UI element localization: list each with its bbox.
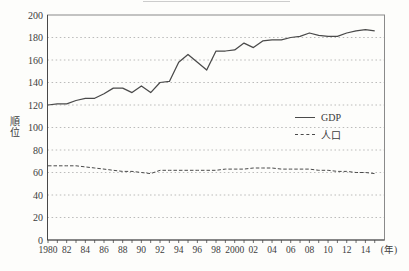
population-legend-line-swatch — [295, 134, 315, 135]
x-axis-unit-label: (年) — [381, 244, 397, 256]
y-tick-label: 180 — [28, 32, 43, 43]
legend: GDP 人口 — [295, 111, 341, 141]
y-tick-label: 120 — [28, 100, 43, 111]
x-tick-label: 86 — [99, 245, 109, 255]
x-tick-label: 14 — [361, 245, 371, 255]
y-tick-label: 60 — [33, 167, 43, 178]
y-tick-label: 140 — [28, 77, 43, 88]
y-tick-label: 80 — [33, 145, 43, 156]
population-legend-label: 人口 — [321, 127, 341, 142]
x-tick-label: 04 — [267, 245, 277, 255]
x-tick-label: 96 — [193, 245, 203, 255]
x-tick-label: 90 — [137, 245, 147, 255]
x-tick-label: 06 — [286, 245, 296, 255]
gdp-series-line — [48, 30, 375, 105]
y-tick-label: 40 — [33, 190, 43, 201]
y-tick-label: 0 — [38, 235, 43, 246]
y-tick-label: 100 — [28, 122, 43, 133]
x-tick-label: 92 — [155, 245, 165, 255]
line-chart: 0204060801001201401601802001980828486889… — [0, 0, 409, 271]
y-tick-label: 20 — [33, 212, 43, 223]
x-tick-label: 1980 — [39, 245, 58, 255]
gdp-legend-label: GDP — [321, 112, 341, 123]
x-tick-label: 2000 — [225, 245, 244, 255]
legend-row-gdp: GDP — [295, 111, 341, 124]
x-tick-label: 98 — [211, 245, 221, 255]
x-tick-label: 94 — [174, 245, 184, 255]
rank-line-chart-figure: 0204060801001201401601802001980828486889… — [0, 0, 409, 271]
gdp-legend-line-swatch — [295, 117, 315, 118]
x-tick-label: 02 — [249, 245, 259, 255]
y-tick-label: 160 — [28, 55, 43, 66]
x-tick-label: 12 — [342, 245, 352, 255]
y-tick-label: 200 — [28, 10, 43, 21]
legend-row-population: 人口 — [295, 128, 341, 141]
y-axis-title: 順位 — [7, 116, 19, 138]
x-tick-label: 88 — [118, 245, 128, 255]
x-tick-label: 82 — [62, 245, 72, 255]
x-tick-label: 08 — [305, 245, 315, 255]
x-tick-label: 10 — [323, 245, 333, 255]
x-tick-label: 84 — [81, 245, 91, 255]
